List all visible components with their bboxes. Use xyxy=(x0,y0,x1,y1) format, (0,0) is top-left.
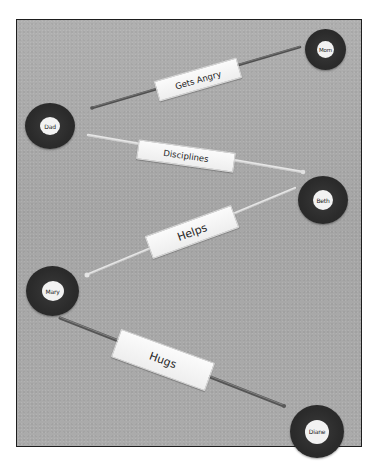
edge-label-text: Disciplines xyxy=(163,148,209,164)
node-beth: Beth xyxy=(298,176,348,224)
node-label: Diane xyxy=(305,420,329,444)
node-diane: Diane xyxy=(290,405,344,458)
node-label: Beth xyxy=(313,190,333,210)
node-label: Dad xyxy=(40,117,60,135)
diagram-canvas: Gets Angry Disciplines Helps Hugs Mom Da… xyxy=(0,0,377,462)
node-mary: Mary xyxy=(26,266,79,316)
node-mom: Mom xyxy=(305,29,346,70)
edge-label-text: Hugs xyxy=(148,349,179,371)
node-dad: Dad xyxy=(25,103,75,149)
node-label: Mary xyxy=(42,281,64,301)
edge-label-text: Helps xyxy=(175,221,208,244)
node-label: Mom xyxy=(317,41,334,58)
